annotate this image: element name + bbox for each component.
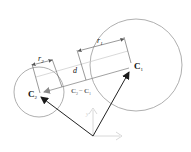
label-r1: r1 [97,36,103,46]
vector-to-c1 [93,72,129,136]
extension-lines [32,37,131,93]
label-axis-y: y [85,111,89,117]
two-circles-diagram: r2 r1 d C1 C2 C2−C1 y [0,0,191,152]
label-c2-minus-c1: C2−C1 [71,87,91,96]
diagram-canvas: r2 r1 d C1 C2 C2−C1 y [0,0,191,152]
label-c2: C2 [28,89,38,100]
distance-d-line [36,51,128,77]
circle-2 [14,67,64,117]
label-c1: C1 [134,61,144,72]
label-r2: r2 [38,54,44,64]
label-d: d [73,66,78,75]
